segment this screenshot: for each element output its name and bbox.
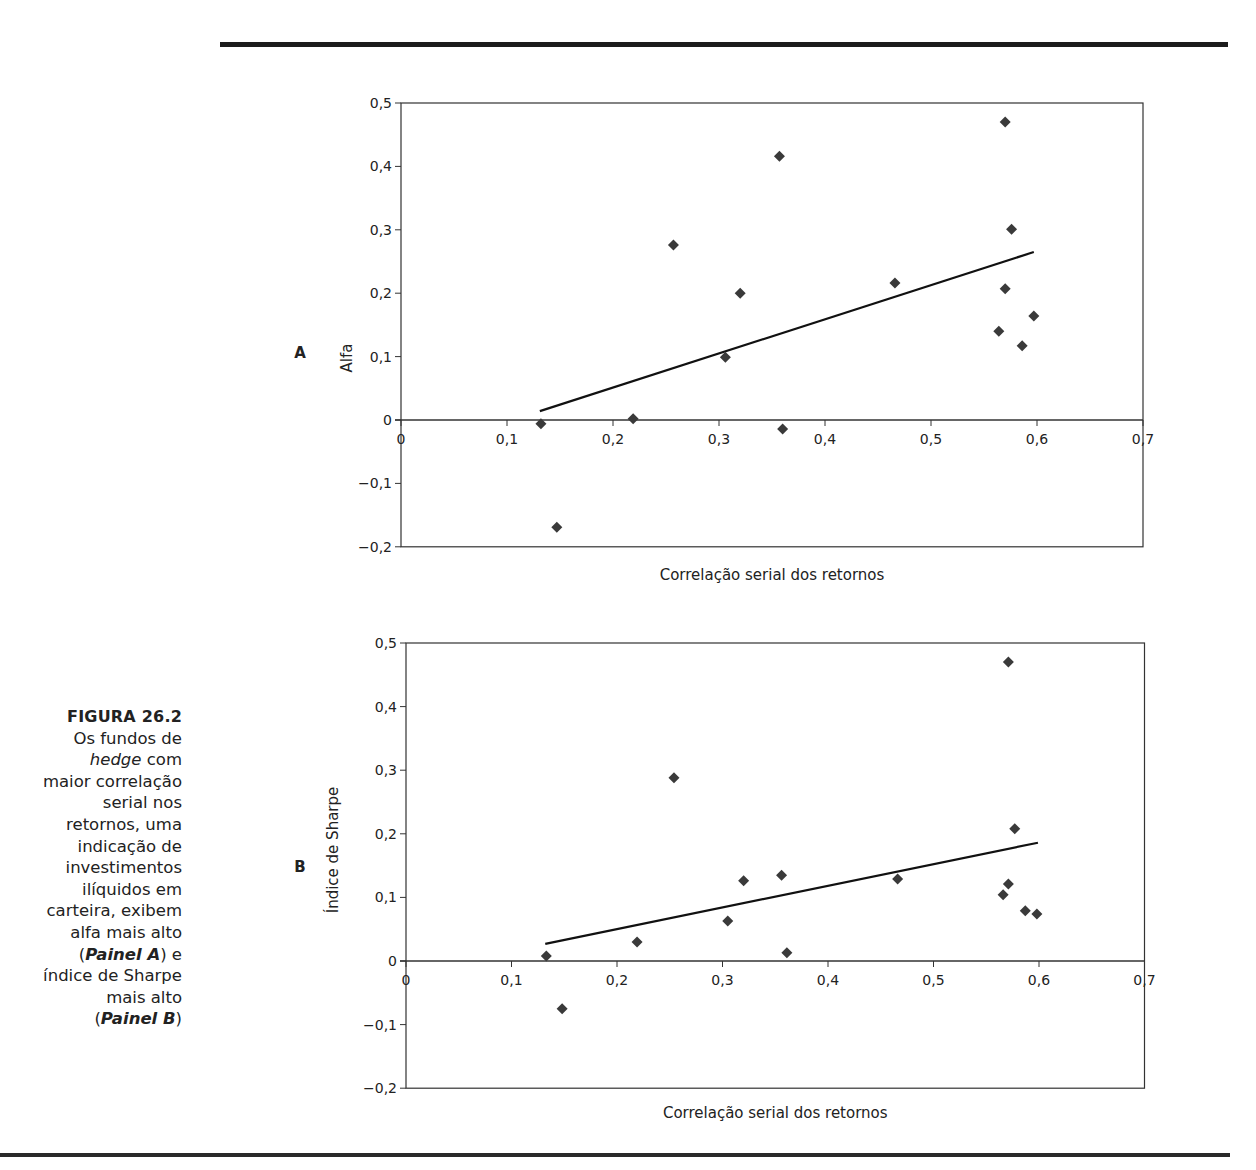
x-tick-label: 0 — [402, 972, 411, 988]
x-tick-label: 0,7 — [1132, 431, 1154, 447]
y-tick-label: −0,2 — [363, 1080, 397, 1096]
data-point-diamond-icon — [557, 1003, 568, 1014]
x-tick-label: 0,4 — [814, 431, 836, 447]
x-tick-label: 0,2 — [602, 431, 624, 447]
x-axis-title: Correlação serial dos retornos — [660, 566, 885, 584]
y-tick-label: 0,1 — [375, 889, 397, 905]
y-axis-title: Alfa — [338, 344, 356, 373]
x-tick-label: 0,4 — [817, 972, 839, 988]
data-point-diamond-icon — [1003, 657, 1014, 668]
x-tick-label: 0,6 — [1026, 431, 1048, 447]
data-point-diamond-icon — [1000, 117, 1011, 128]
x-tick-label: 0,1 — [500, 972, 522, 988]
plot-frame — [401, 103, 1143, 547]
plot-frame — [406, 643, 1145, 1088]
x-tick-label: 0,5 — [922, 972, 944, 988]
data-point-diamond-icon — [668, 772, 679, 783]
y-axis-title: Índice de Sharpe — [323, 787, 342, 914]
y-tick-label: 0,1 — [370, 349, 392, 365]
data-point-diamond-icon — [541, 950, 552, 961]
charts-canvas: 0,50,40,30,20,10−0,1−0,200,10,20,30,40,5… — [0, 0, 1256, 1170]
y-tick-label: 0,3 — [375, 762, 397, 778]
data-point-diamond-icon — [628, 413, 639, 424]
bottom-rule — [0, 1153, 1230, 1157]
x-tick-label: 0,3 — [708, 431, 730, 447]
panel-a-chart: 0,50,40,30,20,10−0,1−0,200,10,20,30,40,5… — [294, 95, 1154, 584]
x-tick-label: 0,5 — [920, 431, 942, 447]
y-tick-label: 0,2 — [375, 826, 397, 842]
x-tick-label: 0,2 — [606, 972, 628, 988]
data-point-diamond-icon — [993, 326, 1004, 337]
trendline — [545, 843, 1038, 944]
y-tick-label: 0,5 — [375, 635, 397, 651]
data-point-diamond-icon — [735, 288, 746, 299]
y-tick-label: 0 — [383, 412, 392, 428]
panel-letter: B — [294, 858, 305, 876]
data-point-diamond-icon — [998, 889, 1009, 900]
x-tick-label: 0,7 — [1133, 972, 1155, 988]
data-point-diamond-icon — [889, 278, 900, 289]
panel-letter: A — [294, 344, 306, 362]
y-tick-label: −0,2 — [358, 539, 392, 555]
data-point-diamond-icon — [777, 423, 788, 434]
data-point-diamond-icon — [738, 875, 749, 886]
y-tick-label: −0,1 — [358, 475, 392, 491]
panel-b-chart: 0,50,40,30,20,10−0,1−0,200,10,20,30,40,5… — [294, 635, 1155, 1122]
data-point-diamond-icon — [668, 240, 679, 251]
x-tick-label: 0,6 — [1028, 972, 1050, 988]
data-point-diamond-icon — [1031, 908, 1042, 919]
data-point-diamond-icon — [1006, 224, 1017, 235]
y-tick-label: 0,5 — [370, 95, 392, 111]
data-point-diamond-icon — [1009, 823, 1020, 834]
data-point-diamond-icon — [722, 915, 733, 926]
y-tick-label: −0,1 — [363, 1017, 397, 1033]
data-point-diamond-icon — [632, 936, 643, 947]
data-point-diamond-icon — [892, 873, 903, 884]
y-tick-label: 0 — [388, 953, 397, 969]
data-point-diamond-icon — [1003, 879, 1014, 890]
data-point-diamond-icon — [781, 947, 792, 958]
x-tick-label: 0,3 — [711, 972, 733, 988]
data-point-diamond-icon — [1020, 905, 1031, 916]
data-point-diamond-icon — [1017, 340, 1028, 351]
y-tick-label: 0,2 — [370, 285, 392, 301]
y-tick-label: 0,3 — [370, 222, 392, 238]
data-point-diamond-icon — [551, 522, 562, 533]
data-point-diamond-icon — [776, 870, 787, 881]
data-point-diamond-icon — [1000, 283, 1011, 294]
x-axis-title: Correlação serial dos retornos — [663, 1104, 888, 1122]
x-tick-label: 0 — [397, 431, 406, 447]
y-tick-label: 0,4 — [375, 699, 397, 715]
data-point-diamond-icon — [1028, 311, 1039, 322]
x-tick-label: 0,1 — [496, 431, 518, 447]
y-tick-label: 0,4 — [370, 158, 392, 174]
trendline — [540, 252, 1034, 411]
data-point-diamond-icon — [774, 151, 785, 162]
